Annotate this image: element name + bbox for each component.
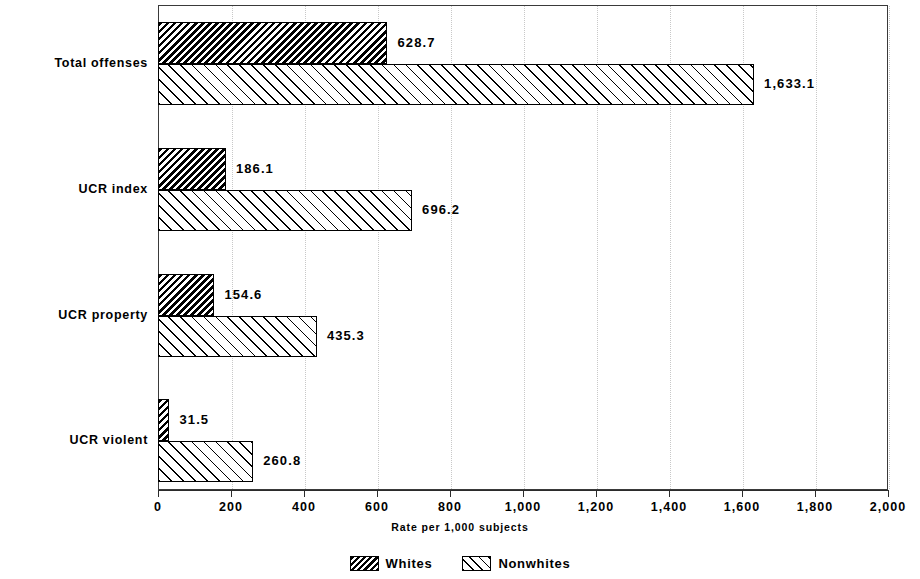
legend-item-whites: Whites — [350, 556, 433, 571]
x-axis-tick — [523, 490, 524, 497]
x-axis-tick-label: 1,400 — [651, 500, 687, 514]
x-axis-tick — [158, 490, 159, 497]
gridline — [816, 6, 818, 489]
x-axis-tick-label: 0 — [154, 500, 162, 514]
legend-swatch-whites-icon — [350, 556, 379, 571]
x-axis-tick-label: 1,200 — [578, 500, 614, 514]
category-label: UCR violent — [0, 433, 148, 447]
bar-nonwhites — [158, 64, 754, 106]
category-label: Total offenses — [0, 56, 148, 70]
bar-value-label: 628.7 — [397, 35, 435, 50]
x-axis-tick — [815, 490, 816, 497]
bar-whites — [158, 399, 169, 441]
x-axis-tick-label: 2,000 — [870, 500, 906, 514]
bar-value-label: 154.6 — [224, 287, 262, 302]
category-label: UCR property — [0, 308, 148, 322]
x-axis-tick — [742, 490, 743, 497]
bar-value-label: 435.3 — [327, 328, 365, 343]
bar-value-label: 31.5 — [179, 412, 209, 427]
x-axis-tick-label: 800 — [438, 500, 462, 514]
legend-item-nonwhites: Nonwhites — [462, 556, 570, 571]
legend: Whites Nonwhites — [0, 556, 920, 571]
x-axis-tick-label: 1,600 — [724, 500, 760, 514]
bar-value-label: 696.2 — [422, 202, 460, 217]
bar-whites — [158, 148, 226, 190]
bar-value-label: 1,633.1 — [764, 76, 815, 91]
x-axis-tick-label: 400 — [292, 500, 316, 514]
x-axis-tick-label: 600 — [365, 500, 389, 514]
x-axis-tick — [450, 490, 451, 497]
bar-whites — [158, 274, 214, 316]
bar-nonwhites — [158, 190, 412, 232]
bar-whites — [158, 22, 387, 64]
x-axis-title: Rate per 1,000 subjects — [0, 521, 920, 533]
legend-label-whites: Whites — [386, 556, 433, 571]
x-axis-tick — [377, 490, 378, 497]
legend-label-nonwhites: Nonwhites — [498, 556, 570, 571]
bar-nonwhites — [158, 441, 253, 483]
x-axis-tick-label: 1,000 — [505, 500, 541, 514]
bar-value-label: 186.1 — [236, 161, 274, 176]
bar-chart: Total offensesUCR indexUCR propertyUCR v… — [0, 0, 920, 579]
bar-value-label: 260.8 — [263, 453, 301, 468]
gridline — [889, 6, 891, 489]
x-axis-tick — [888, 490, 889, 497]
bar-nonwhites — [158, 316, 317, 358]
x-axis-tick — [231, 490, 232, 497]
x-axis-tick — [669, 490, 670, 497]
x-axis-tick — [596, 490, 597, 497]
x-axis-tick-label: 200 — [219, 500, 243, 514]
x-axis-tick — [304, 490, 305, 497]
x-axis-tick-label: 1,800 — [797, 500, 833, 514]
legend-swatch-nonwhites-icon — [462, 556, 491, 571]
category-label: UCR index — [0, 182, 148, 196]
